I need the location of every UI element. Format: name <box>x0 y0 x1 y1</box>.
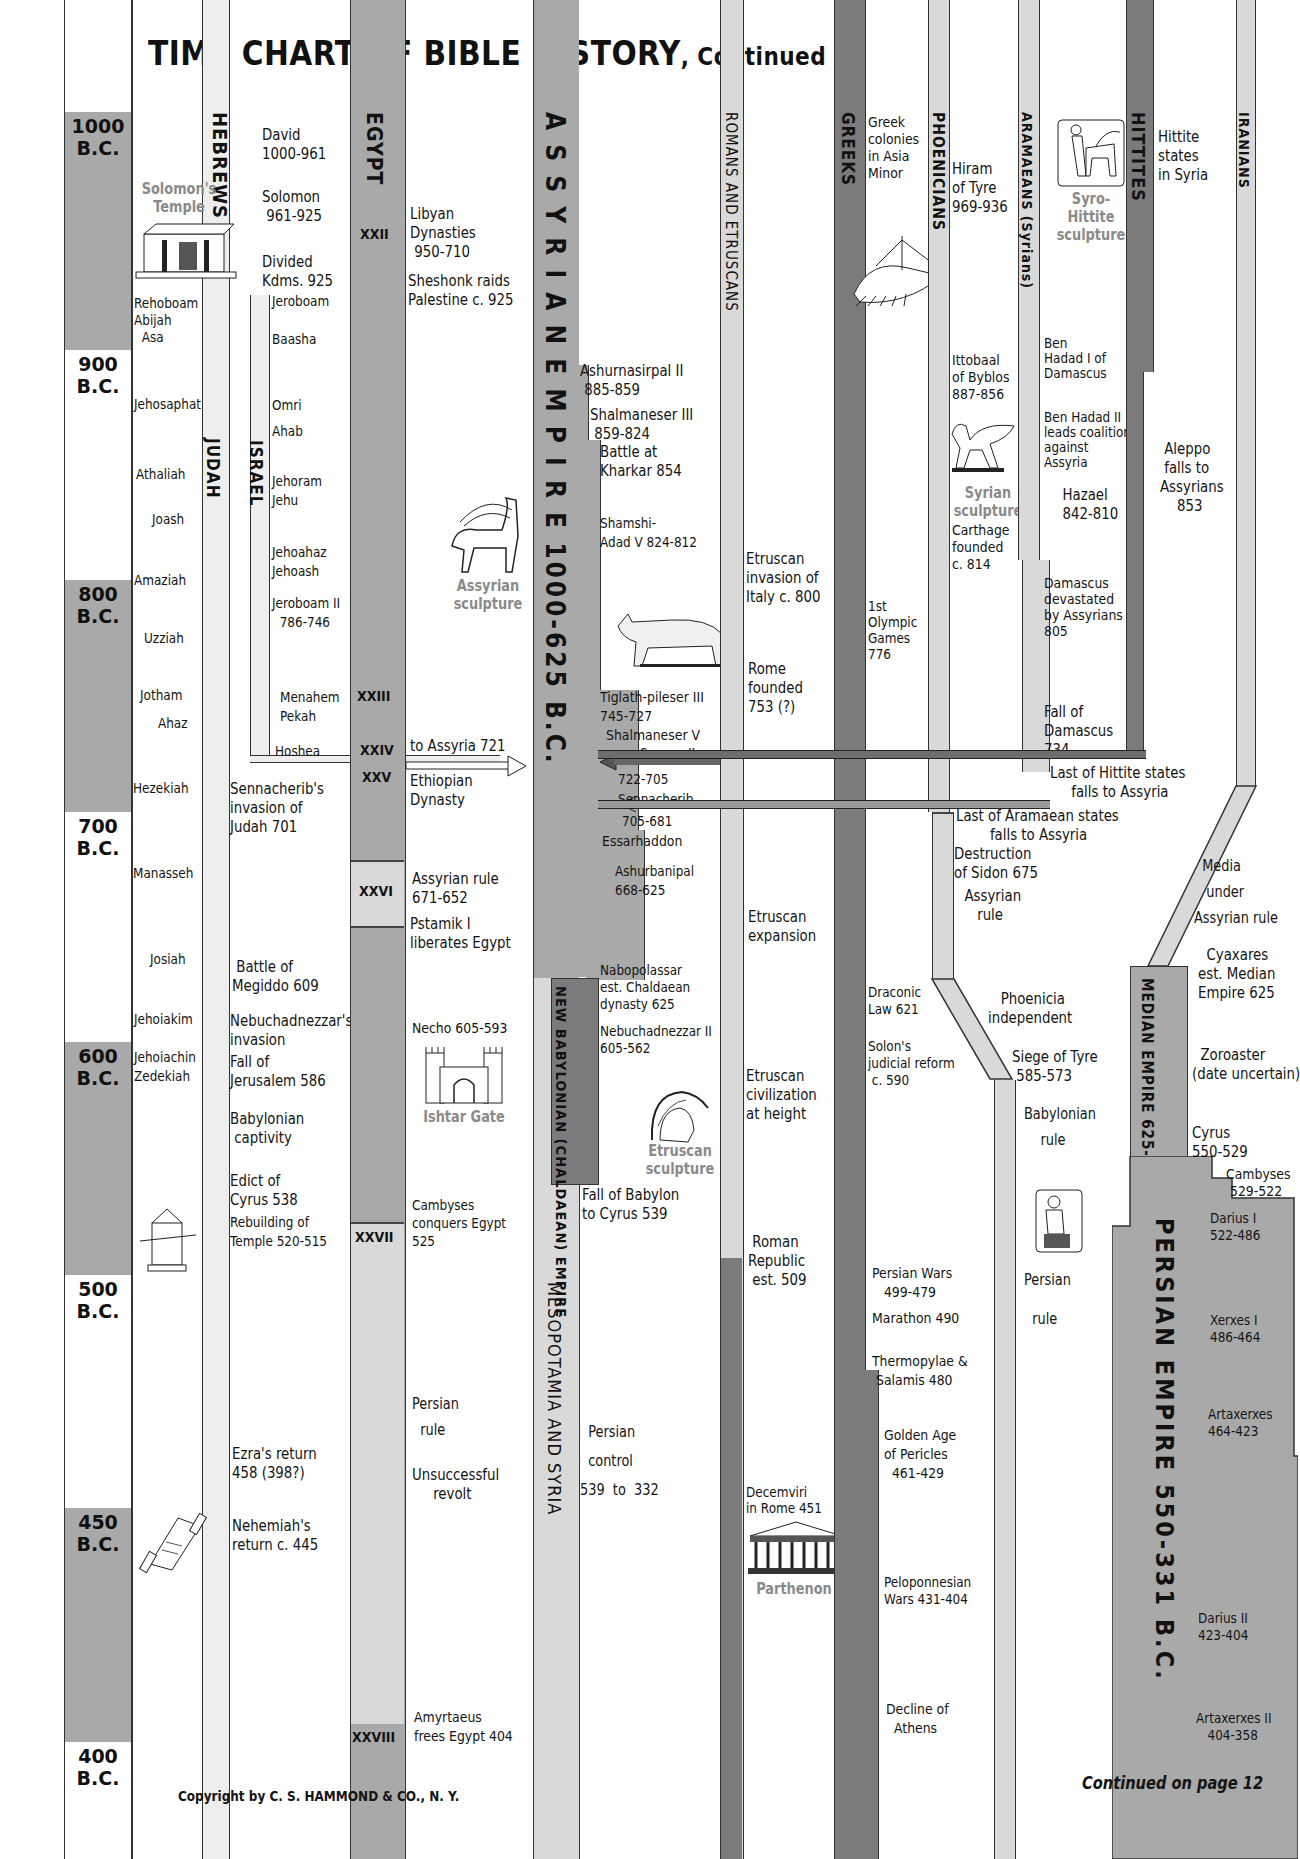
iranian-event-media-under-assyria: Media under Assyrian rule <box>1194 860 1278 925</box>
greek-event-persian-wars: Persian Wars 499-479 <box>872 1264 952 1302</box>
phoenicians-label: PHOENICIANS <box>929 112 947 231</box>
roman-event-etruscan-expansion: Etruscan expansion <box>748 908 816 946</box>
assyria-event-tiglath-pileser: Tiglath-pileser III 745-727 <box>600 688 704 726</box>
hebrew-event-babylonian-captivity: Babylonian captivity <box>230 1110 304 1148</box>
year-label-800: 800 B.C. <box>65 583 131 627</box>
judah-king-uzziah: Uzziah <box>144 629 184 648</box>
ishtar-gate-illustration-icon <box>420 1045 508 1105</box>
iranian-event-darius-i: Darius I 522-486 <box>1210 1210 1260 1244</box>
hebrew-event-ezra: Ezra's return 458 (398?) <box>232 1445 317 1483</box>
hittite-event-aleppo: Aleppo falls to Assyrians 853 <box>1160 440 1224 516</box>
syro-hittite-caption: Syro- Hittite sculpture <box>1052 190 1129 244</box>
hittite-event-states-in-syria: Hittite states in Syria <box>1158 128 1208 185</box>
phoenician-event-last-aramaean: Last of Aramaean states falls to Assyria <box>956 807 1119 845</box>
hebrew-event-jeroboam-ii: Jeroboam II 786-746 <box>272 594 340 632</box>
aramaean-event-ben-hadad-i: Ben Hadad I of Damascus <box>1044 336 1107 381</box>
judah-king-jotham: Jotham <box>140 686 182 705</box>
egypt-dynasty-xxii: XXII <box>360 226 389 242</box>
helmet-illustration-icon <box>648 1086 710 1148</box>
greek-event-decline-of-athens: Decline of Athens <box>886 1700 949 1738</box>
hebrew-event-david: David 1000-961 <box>262 126 326 164</box>
scroll-illustration-icon <box>136 1508 208 1574</box>
judah-king-amaziah: Amaziah <box>134 571 186 590</box>
aramaean-event-ben-hadad-ii: Ben Hadad II leads coalition against Ass… <box>1044 410 1131 470</box>
persian-empire-label: PERSIAN EMPIRE 550-331 B.C. <box>1150 1218 1179 1682</box>
hittites-label: HITTITES <box>1128 112 1149 202</box>
greeks-label: GREEKS <box>838 112 858 186</box>
aramaean-event-damascus-devastated: Damascus devastated by Assyrians 805 <box>1044 575 1123 639</box>
hebrew-event-ahab: Ahab <box>272 422 303 441</box>
year-label-900: 900 B.C. <box>65 353 131 397</box>
iranian-event-cyaxares: Cyaxares est. Median Empire 625 <box>1198 946 1275 1003</box>
iranian-event-xerxes-i: Xerxes I 486-464 <box>1210 1312 1260 1346</box>
judah-king-hezekiah: Hezekiah <box>133 779 189 798</box>
year-label-1000: 1000 B.C. <box>65 115 131 159</box>
persian-empire-band <box>1112 1156 1298 1859</box>
winged-bull-illustration-icon <box>446 496 528 576</box>
hebrew-event-sennacherib: Sennacherib's invasion of Judah 701 <box>230 780 324 837</box>
parthenon-caption: Parthenon <box>754 1580 833 1598</box>
judah-king-manasseh: Manasseh <box>133 864 193 883</box>
judah-left-line <box>131 0 133 1859</box>
egypt-event-necho: Necho 605-593 <box>412 1019 507 1038</box>
iranian-event-zoroaster: Zoroaster (date uncertain) <box>1192 1046 1300 1084</box>
hebrew-event-solomon: Solomon 961-925 <box>262 188 322 226</box>
greek-event-draconic-law: Draconic Law 621 <box>868 984 921 1018</box>
greek-event-marathon: Marathon 490 <box>872 1309 959 1328</box>
iranian-event-artaxerxes-ii: Artaxerxes II 404-358 <box>1196 1710 1271 1744</box>
hebrew-event-hoshea: Hoshea <box>275 742 320 761</box>
judah-label: JUDAH <box>203 438 223 498</box>
assyria-event-persian-control: Persian control 539 to 332 <box>580 1425 659 1498</box>
hebrew-event-nebuchadnezzar-invasion: Nebuchadnezzar's invasion <box>230 1012 352 1050</box>
assyria-event-shalmaneser-iii: Shalmaneser III 859-824 <box>590 406 693 444</box>
hebrew-event-edict-of-cyrus: Edict of Cyrus 538 <box>230 1172 298 1210</box>
year-label-450: 450 B.C. <box>65 1511 131 1555</box>
assyria-event-shamshi-adad: Shamshi- Adad V 824-812 <box>600 514 697 552</box>
roman-event-roman-republic: Roman Republic est. 509 <box>748 1233 807 1290</box>
egypt-event-amyrtaeus: Amyrtaeus frees Egypt 404 <box>414 1708 513 1746</box>
syrian-sculpture-caption: Syrian sculpture <box>952 484 1024 520</box>
phoenician-event-carthage: Carthage founded c. 814 <box>952 522 1009 573</box>
assyria-event-ashurnasirpal: Ashurnasirpal II 885-859 <box>580 362 683 400</box>
mesopotamia-label: MESOPOTAMIA AND SYRIA <box>544 1282 565 1515</box>
egypt-label: EGYPT <box>362 112 386 185</box>
iranians-label: IRANIANS <box>1236 112 1252 189</box>
parthenon-illustration-icon <box>748 1520 844 1576</box>
greek-event-golden-age: Golden Age of Pericles 461-429 <box>880 1426 956 1483</box>
assyria-event-fall-of-babylon: Fall of Babylon to Cyrus 539 <box>582 1186 679 1224</box>
phoenician-event-hiram: Hiram of Tyre 969-936 <box>952 160 1008 217</box>
shrine-illustration-icon <box>138 1205 198 1275</box>
assyria-event-sargon-dates: 722-705 <box>618 770 668 789</box>
assyria-event-shalmaneser-v: Shalmaneser V <box>606 726 700 745</box>
assyrian-sculpture-caption: Assyrian sculpture <box>445 577 531 613</box>
aramaeans-to-assyria-line <box>598 800 1050 809</box>
assyria-event-battle-kharkar: Battle at Kharkar 854 <box>600 443 682 481</box>
romans-etruscans-label: ROMANS AND ETRUSCANS <box>722 112 740 312</box>
phoenician-event-ittobaal: Ittobaal of Byblos 887-856 <box>952 352 1009 403</box>
greek-event-colonies: Greek colonies in Asia Minor <box>868 114 919 182</box>
hebrew-event-jehoahaz: Jehoahaz Jehoash <box>272 543 327 581</box>
hebrew-event-omri: Omri <box>272 396 302 415</box>
assyrian-empire-label: A S S Y R I A N E M P I R E 1000-625 B.C… <box>540 112 570 766</box>
judah-king-ahaz: Ahaz <box>158 714 188 733</box>
hebrew-event-jehoram-jehu: Jehoram Jehu <box>272 472 322 510</box>
egypt-event-pstamik: Pstamik I liberates Egypt <box>410 915 511 953</box>
hebrew-event-rebuilding-temple: Rebuilding of Temple 520-515 <box>230 1213 327 1251</box>
phoenician-event-babylonian-rule: Babylonian rule <box>1024 1108 1096 1147</box>
hebrew-event-divided-kingdoms: Divided Kdms. 925 <box>262 253 333 291</box>
hittites-column-lower <box>1126 372 1144 757</box>
judah-king-joash: Joash <box>152 510 184 529</box>
egypt-dynasty-xxviii: XXVIII <box>352 1729 395 1745</box>
egypt-event-sheshonk: Sheshonk raids Palestine c. 925 <box>408 272 514 310</box>
solomons-temple-caption: Solomon's Temple <box>132 180 227 216</box>
assyria-event-nebuchadnezzar-ii: Nebuchadnezzar II 605-562 <box>600 1023 712 1057</box>
egypt-dynasty-xxiii: XXIII <box>357 688 390 704</box>
hebrew-event-jeroboam: Jeroboam <box>272 292 329 311</box>
year-label-700: 700 B.C. <box>65 815 131 859</box>
title-suffix: , Continued <box>681 43 826 71</box>
hebrew-event-baasha: Baasha <box>272 330 316 349</box>
egypt-event-cambyses: Cambyses conquers Egypt 525 <box>412 1196 506 1250</box>
egypt-dynasty-xxvii: XXVII <box>355 1229 394 1245</box>
assyria-event-essarhaddon: Essarhaddon <box>602 832 682 851</box>
roman-event-decemviri: Decemviri in Rome 451 <box>746 1484 822 1516</box>
